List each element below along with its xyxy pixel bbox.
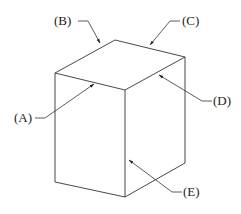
label-c: (C) — [182, 13, 199, 28]
callout-a: (A) — [14, 84, 94, 125]
label-a: (A) — [14, 110, 32, 125]
label-e: (E) — [183, 184, 200, 199]
top-face — [55, 40, 185, 90]
box-edges — [55, 40, 185, 197]
callout-c: (C) — [150, 13, 199, 45]
label-b: (B) — [54, 13, 71, 28]
callout-d: (D) — [159, 75, 231, 108]
box-diagram: (B) (C) (A) (D) (E) — [0, 0, 241, 214]
right-face — [125, 57, 185, 197]
callout-e: (E) — [129, 160, 200, 199]
diagram-canvas: (B) (C) (A) (D) (E) — [0, 0, 241, 214]
front-left-face — [55, 73, 125, 197]
label-d: (D) — [213, 93, 231, 108]
callout-b: (B) — [54, 13, 100, 43]
